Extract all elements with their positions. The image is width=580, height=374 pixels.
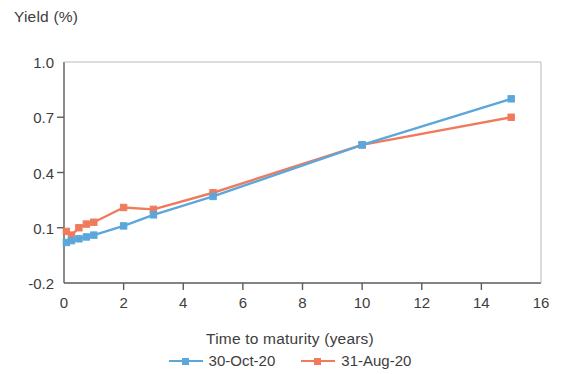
axis-lines xyxy=(64,62,541,283)
y-tick-label: 0.1 xyxy=(4,219,54,236)
x-tick-label: 4 xyxy=(179,294,187,311)
data-series-group xyxy=(63,96,514,246)
x-axis-ticks xyxy=(124,283,482,290)
y-tick-label: 0.4 xyxy=(4,164,54,181)
legend-entry-1[interactable]: 30-Oct-20 xyxy=(169,352,276,369)
x-axis-title: Time to maturity (years) xyxy=(0,330,580,348)
x-tick-label: 14 xyxy=(473,294,490,311)
y-tick-label: -0.2 xyxy=(4,275,54,292)
x-tick-label: 8 xyxy=(298,294,306,311)
x-tick-label: 12 xyxy=(413,294,430,311)
series-31-aug-20 xyxy=(63,114,514,238)
legend-marker-icon xyxy=(169,355,203,367)
legend-label: 30-Oct-20 xyxy=(209,352,276,369)
x-tick-label: 16 xyxy=(533,294,550,311)
x-tick-label: 2 xyxy=(119,294,127,311)
x-tick-label: 0 xyxy=(60,294,68,311)
y-axis-ticks xyxy=(57,117,64,228)
plot-area xyxy=(0,0,580,374)
legend-entry-2[interactable]: 31-Aug-20 xyxy=(301,352,411,369)
series-30-oct-20 xyxy=(63,96,514,246)
x-tick-label: 6 xyxy=(239,294,247,311)
yield-curve-chart: Yield (%) 1.00.70.40.1-0.2 0246810121416… xyxy=(0,0,580,374)
x-tick-label: 10 xyxy=(354,294,371,311)
y-tick-label: 0.7 xyxy=(4,109,54,126)
chart-legend: 30-Oct-2031-Aug-20 xyxy=(0,352,580,369)
legend-label: 31-Aug-20 xyxy=(341,352,411,369)
y-tick-label: 1.0 xyxy=(4,54,54,71)
legend-marker-icon xyxy=(301,355,335,367)
